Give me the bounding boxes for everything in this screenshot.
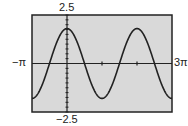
graph-plot [0,0,188,126]
